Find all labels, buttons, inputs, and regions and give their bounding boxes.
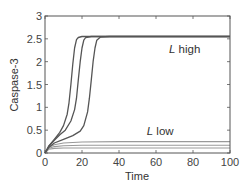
series-line-low xyxy=(45,148,230,153)
y-tick-label: 0 xyxy=(36,147,42,159)
y-axis-label: Caspase-3 xyxy=(8,58,20,111)
y-tick-label: 0.5 xyxy=(27,124,42,136)
x-tick-label: 0 xyxy=(42,156,48,168)
x-tick-label: 80 xyxy=(187,156,199,168)
series-line-low xyxy=(45,142,230,153)
annotation-l-low: L low xyxy=(147,125,175,137)
y-tick-label: 3 xyxy=(36,10,42,22)
x-axis-label: Time xyxy=(125,170,149,182)
y-tick-label: 1.5 xyxy=(27,79,42,91)
series-line-high xyxy=(45,37,230,154)
y-tick-label: 1 xyxy=(36,101,42,113)
series-line-low xyxy=(45,145,230,153)
x-tick-label: 60 xyxy=(150,156,162,168)
caspase-time-chart: 020406080100 00.511.522.53 Time Caspase-… xyxy=(0,0,250,190)
annotation-l-high: L high xyxy=(169,43,200,55)
y-tick-label: 2.5 xyxy=(27,33,42,45)
y-tick-label: 2 xyxy=(36,56,42,68)
x-tick-label: 20 xyxy=(76,156,88,168)
x-tick-label: 40 xyxy=(113,156,125,168)
x-tick-label: 100 xyxy=(221,156,239,168)
plot-lines xyxy=(45,37,230,154)
